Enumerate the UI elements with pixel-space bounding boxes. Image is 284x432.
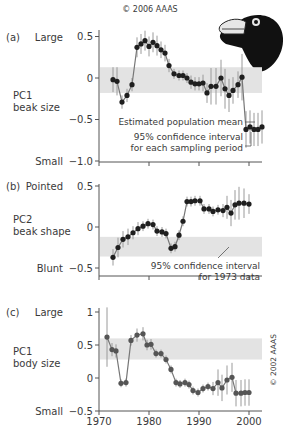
bottom-label: Small <box>35 406 63 417</box>
data-point <box>166 63 171 68</box>
y-tick-label: 0 <box>87 373 93 384</box>
data-point <box>246 201 251 206</box>
data-point <box>158 47 163 52</box>
data-point <box>113 348 118 353</box>
panel-label: (b) <box>6 181 20 192</box>
data-point <box>150 40 155 45</box>
x-tick-label: 1980 <box>136 416 161 427</box>
y-tick-label: 0 <box>87 222 93 233</box>
y-axis-label: PC2 <box>13 214 32 225</box>
y-tick-label: −0.5 <box>69 406 93 417</box>
data-point <box>190 388 195 393</box>
data-point <box>129 82 134 87</box>
data-point <box>110 255 115 260</box>
data-point <box>114 79 119 84</box>
y-tick-label: 1 <box>87 307 93 318</box>
y-tick-label: 0.5 <box>77 31 93 42</box>
panel-c-body-size: 10.50−0.51970198019902000(c)LargeSmallPC… <box>6 307 262 428</box>
data-point <box>215 207 220 212</box>
data-point <box>162 51 167 56</box>
data-point <box>150 222 155 227</box>
annotation-ci-2: for each sampling period <box>131 143 243 153</box>
y-tick-label: 0.5 <box>77 340 93 351</box>
x-tick-label: 1970 <box>86 416 111 427</box>
confidence-band <box>100 338 262 359</box>
data-point <box>120 237 125 242</box>
data-point <box>200 80 205 85</box>
y-axis-label: beak shape <box>13 226 71 237</box>
data-point <box>208 84 213 89</box>
data-point <box>119 99 124 104</box>
data-point <box>176 233 181 238</box>
x-tick-label: 1990 <box>186 416 211 427</box>
data-point <box>154 43 159 48</box>
panel-b-beak-shape: 0.50−0.5(b)PointedBluntPC2beak shape95% … <box>6 181 262 283</box>
figure: © 2006 AAAS 0.50−0.5−1.0(a)LargeSmallPC1… <box>0 0 284 432</box>
y-tick-label: 0 <box>87 73 93 84</box>
svg-text:© 2002 AAAS: © 2002 AAAS <box>269 334 278 386</box>
data-point <box>239 75 244 80</box>
data-point <box>146 44 151 49</box>
data-point <box>224 205 229 210</box>
data-point <box>138 41 143 46</box>
y-axis-label: PC1 <box>13 90 32 101</box>
x-tick-label: 2000 <box>236 416 261 427</box>
data-point <box>115 245 120 250</box>
data-point <box>186 382 191 387</box>
data-point <box>134 333 139 338</box>
data-point <box>195 390 200 395</box>
bottom-label: Blunt <box>37 263 63 274</box>
annotation-mean: Estimated population mean <box>118 117 243 127</box>
finch-head-illustration <box>219 15 283 72</box>
top-label: Large <box>35 307 63 318</box>
data-point <box>220 208 225 213</box>
data-point <box>224 377 229 382</box>
data-point <box>246 390 251 395</box>
data-point <box>135 226 140 231</box>
data-point <box>210 386 215 391</box>
top-label: Pointed <box>26 181 63 192</box>
data-point <box>226 93 231 98</box>
y-axis-label: body size <box>13 358 60 369</box>
bottom-label: Small <box>35 156 63 167</box>
data-point <box>200 386 205 391</box>
y-tick-label: −0.5 <box>69 114 93 125</box>
annotation-ci-1973: 95% confidence interval <box>151 261 260 271</box>
data-point <box>171 71 176 76</box>
data-point <box>142 38 147 43</box>
data-point <box>230 88 235 93</box>
data-point <box>213 84 218 89</box>
top-label: Large <box>35 32 63 43</box>
data-point <box>163 357 168 362</box>
data-point <box>228 210 233 215</box>
svg-text:© 2006 AAAS: © 2006 AAAS <box>122 5 177 14</box>
data-point <box>215 380 220 385</box>
data-point <box>123 380 128 385</box>
data-point <box>145 221 150 226</box>
panel-a-beak-size: 0.50−0.5−1.0(a)LargeSmallPC1beak sizeEst… <box>6 30 265 167</box>
data-point <box>128 338 133 343</box>
data-point <box>197 198 202 203</box>
data-point <box>104 334 109 339</box>
data-point <box>229 375 234 380</box>
y-axis-label: beak size <box>13 102 60 113</box>
data-point <box>158 351 163 356</box>
data-point <box>218 75 223 80</box>
data-point <box>222 86 227 91</box>
data-point <box>184 75 189 80</box>
y-tick-label: −1.0 <box>69 156 93 167</box>
data-point <box>134 45 139 50</box>
data-point <box>241 201 246 206</box>
data-point <box>233 391 238 396</box>
y-tick-label: 0.5 <box>77 181 93 192</box>
copyright-side: © 2002 AAAS <box>269 334 278 386</box>
data-point <box>163 231 168 236</box>
y-axis-label: PC1 <box>13 346 32 357</box>
data-point <box>201 206 206 211</box>
data-point <box>235 82 240 87</box>
data-point <box>124 93 129 98</box>
data-point <box>118 381 123 386</box>
annotation-ci: 95% confidence interval <box>134 132 243 142</box>
panel-label: (a) <box>6 32 20 43</box>
data-point <box>125 234 130 239</box>
